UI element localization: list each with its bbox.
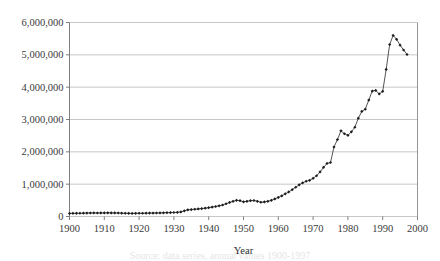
data-point-marker — [78, 212, 81, 215]
data-point-marker — [332, 145, 335, 148]
data-point-marker — [197, 207, 200, 210]
y-axis-tick-label: 0 — [58, 211, 63, 222]
x-axis-tick-label: 1990 — [372, 223, 393, 234]
data-point-marker — [238, 199, 241, 202]
data-point-marker — [367, 99, 370, 102]
y-axis-tick-label: 3,000,000 — [22, 114, 64, 125]
x-axis-tick-label: 1900 — [59, 223, 80, 234]
chart-figure: 01,000,0002,000,0003,000,0004,000,0005,0… — [0, 0, 440, 261]
data-point-marker — [277, 196, 280, 199]
data-point-marker — [169, 211, 172, 214]
data-series — [70, 35, 408, 213]
data-point-marker — [385, 68, 388, 71]
data-point-marker — [82, 212, 85, 215]
x-axis-tick-label: 1930 — [163, 223, 184, 234]
figure-caption: Source: data series, annual values 1900-… — [0, 252, 440, 261]
data-point-marker — [225, 202, 228, 205]
y-axis-tick-label: 1,000,000 — [22, 179, 64, 190]
data-point-marker — [131, 212, 134, 215]
data-point-marker — [245, 200, 248, 203]
x-axis-tick-label: 1970 — [303, 223, 324, 234]
data-point-marker — [103, 211, 106, 214]
y-axis-tick-label: 5,000,000 — [22, 49, 64, 60]
x-axis-tick-label: 1980 — [337, 223, 358, 234]
x-axis-tick-label: 1960 — [268, 223, 289, 234]
data-point-marker — [71, 212, 74, 215]
data-point-marker — [158, 211, 161, 214]
data-point-marker — [183, 209, 186, 212]
data-point-marker — [190, 208, 193, 211]
data-point-marker — [113, 211, 116, 214]
data-point-marker — [270, 199, 273, 202]
data-point-marker — [75, 212, 78, 215]
data-point-marker — [110, 211, 113, 214]
data-point-marker — [280, 194, 283, 197]
data-point-marker — [266, 200, 269, 203]
data-point-marker — [138, 212, 141, 215]
y-axis-tick-label: 2,000,000 — [22, 146, 64, 157]
data-point-marker — [99, 211, 102, 214]
data-point-marker — [329, 161, 332, 164]
x-axis-tick-label: 2000 — [407, 223, 428, 234]
data-point-marker — [305, 180, 308, 183]
data-point-marker — [106, 211, 109, 214]
data-point-marker — [242, 200, 245, 203]
data-point-marker — [193, 208, 196, 211]
gridlines — [70, 23, 418, 217]
figure-caption-text: Source: data series, annual values 1900-… — [0, 252, 440, 261]
data-point-marker — [141, 212, 144, 215]
data-point-marker — [120, 212, 123, 215]
data-point-marker — [155, 211, 158, 214]
data-point-marker — [221, 203, 224, 206]
data-point-marker — [259, 201, 262, 204]
x-axis-tick-label: 1940 — [198, 223, 219, 234]
data-point-marker — [200, 207, 203, 210]
line-chart: 01,000,0002,000,0003,000,0004,000,0005,0… — [0, 0, 440, 261]
data-point-marker — [148, 212, 151, 215]
data-point-marker — [165, 211, 168, 214]
x-axis-ticks: 1900191019201930194019501960197019801990… — [59, 217, 428, 234]
data-point-marker — [231, 200, 234, 203]
data-point-marker — [176, 211, 179, 214]
data-point-marker — [256, 200, 259, 203]
data-point-marker — [371, 89, 374, 92]
data-point-marker — [172, 211, 175, 214]
data-point-marker — [218, 204, 221, 207]
x-axis-tick-label: 1920 — [129, 223, 150, 234]
data-point-marker — [92, 211, 95, 214]
x-axis-tick-label: 1950 — [233, 223, 254, 234]
data-point-marker — [263, 200, 266, 203]
data-point-marker — [85, 211, 88, 214]
y-axis-tick-label: 6,000,000 — [22, 17, 64, 28]
data-point-marker — [68, 212, 71, 215]
data-point-marker — [252, 199, 255, 202]
data-point-marker — [336, 138, 339, 141]
y-axis-ticks: 01,000,0002,000,0003,000,0004,000,0005,0… — [22, 17, 70, 222]
x-axis-tick-label: 1910 — [94, 223, 115, 234]
data-point-marker — [388, 43, 391, 46]
data-point-marker — [151, 211, 154, 214]
data-point-marker — [96, 211, 99, 214]
data-point-marker — [249, 199, 252, 202]
y-axis-tick-label: 4,000,000 — [22, 82, 64, 93]
data-point-marker — [179, 210, 182, 213]
data-markers — [68, 34, 409, 215]
data-point-marker — [162, 211, 165, 214]
data-point-marker — [211, 206, 214, 209]
data-point-marker — [284, 192, 287, 195]
data-point-marker — [186, 208, 189, 211]
data-point-marker — [235, 199, 238, 202]
data-point-marker — [127, 212, 130, 215]
data-point-marker — [134, 212, 137, 215]
data-point-marker — [308, 179, 311, 182]
data-point-marker — [89, 211, 92, 214]
data-point-marker — [273, 197, 276, 200]
data-point-marker — [124, 212, 127, 215]
data-point-marker — [204, 207, 207, 210]
data-point-marker — [214, 205, 217, 208]
data-point-marker — [228, 201, 231, 204]
data-point-marker — [144, 212, 147, 215]
data-point-marker — [117, 211, 120, 214]
data-point-marker — [207, 206, 210, 209]
